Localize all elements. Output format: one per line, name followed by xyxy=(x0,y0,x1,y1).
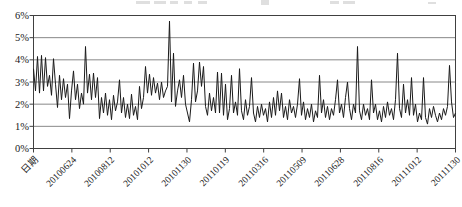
cropped-text-artifact xyxy=(343,1,355,4)
y-axis-tick-label: 6% xyxy=(3,9,29,22)
cropped-text-artifact xyxy=(184,1,192,4)
cropped-text-artifact xyxy=(261,0,269,5)
cropped-text-artifact xyxy=(170,1,178,4)
cropped-text-artifact xyxy=(428,2,436,4)
y-axis-tick-label: 1% xyxy=(3,120,29,133)
cropped-text-artifact xyxy=(136,1,150,4)
y-axis-tick-label: 3% xyxy=(3,76,29,89)
y-axis-tick-label: 0% xyxy=(3,142,29,155)
y-axis-tick-label: 2% xyxy=(3,98,29,111)
cropped-text-artifact xyxy=(330,1,339,4)
y-axis-tick-label: 4% xyxy=(3,53,29,66)
cropped-text-artifact xyxy=(198,1,207,4)
cropped-text-artifact xyxy=(154,1,166,4)
data-line xyxy=(34,21,456,124)
y-axis-tick-label: 5% xyxy=(3,31,29,44)
